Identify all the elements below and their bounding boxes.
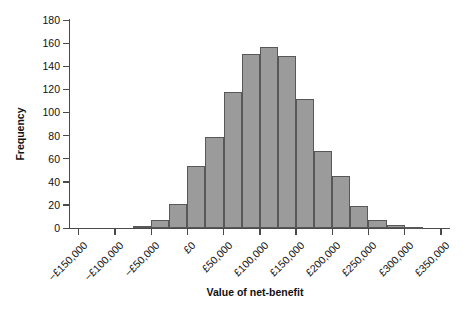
y-axis-tick [63,89,69,90]
y-axis-line [69,19,70,229]
x-axis-tick [223,229,224,235]
x-axis-title: Value of net-benefit [60,286,450,298]
y-axis-tick [63,43,69,44]
histogram-bar [242,54,260,228]
y-axis-tick-label: 80 [18,130,60,142]
histogram-bar [314,151,332,228]
x-axis-tick [187,229,188,235]
histogram-bar [224,92,242,228]
y-axis-tick-label: 120 [18,83,60,95]
x-axis-tick [259,229,260,235]
x-axis-tick [151,229,152,235]
y-axis-tick [63,112,69,113]
y-axis-tick [63,158,69,159]
histogram-bar [387,225,405,228]
y-axis-tick [63,135,69,136]
histogram-bar [169,204,187,228]
y-axis-tick [63,181,69,182]
y-axis-tick-label: 160 [18,37,60,49]
y-axis-tick-label: 140 [18,60,60,72]
x-axis-tick [295,229,296,235]
x-axis-tick [368,229,369,235]
y-axis-tick [63,20,69,21]
x-axis-tick [78,229,79,235]
histogram-bar [151,220,169,228]
x-axis-tick [332,229,333,235]
histogram-bar [296,99,314,228]
y-axis-tick [63,228,69,229]
histogram-figure: Frequency 020406080100120140160180 −£150… [0,0,463,317]
y-axis-tick-label: 40 [18,176,60,188]
y-axis-tick-label: 20 [18,199,60,211]
histogram-bar [133,226,151,228]
y-axis-tick-label: 180 [18,14,60,26]
histogram-bar [205,137,223,228]
histogram-bar [350,206,368,228]
histogram-bar [368,220,386,228]
y-axis-tick-label: 60 [18,153,60,165]
x-axis-tick [404,229,405,235]
y-axis-tick-label: 100 [18,106,60,118]
histogram-bar [405,227,423,229]
histogram-bar [278,56,296,228]
x-axis-tick [440,229,441,235]
y-axis-tick [63,66,69,67]
histogram-bar [187,166,205,228]
x-axis-tick [114,229,115,235]
y-axis-tick [63,204,69,205]
histogram-bar [332,176,350,228]
histogram-bar [260,47,278,228]
y-axis-tick-label: 0 [18,222,60,234]
